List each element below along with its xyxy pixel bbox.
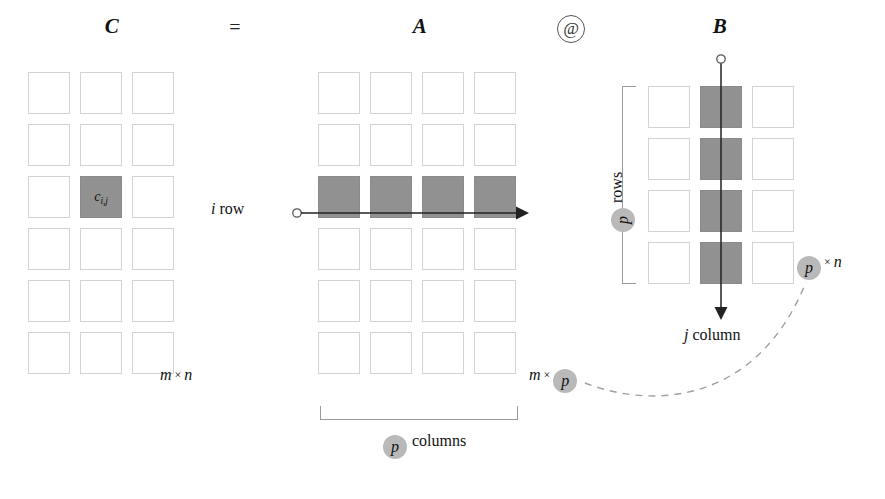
matrix-c-cell [28,280,70,322]
p-columns-pill: p [383,435,407,459]
matrix-b-dim-n: n [834,253,842,270]
matrix-c-cell [28,176,70,218]
matrix-a-dimension: m×p [529,366,577,393]
matrix-b-cell [648,242,690,284]
matrix-c-dimension: m×n [160,366,192,384]
i-row-label-roman: row [219,200,244,217]
matrix-a-cell [474,228,516,270]
matrix-b-cell [648,86,690,128]
matrix-c-cell [28,72,70,114]
matrix-b-cell [752,138,794,180]
matrix-a-cell [474,280,516,322]
i-row-arrow-origin-dot [293,209,301,217]
matrix-b-dimension: p×n [797,253,842,280]
matrix-a-dim-m: m [529,366,541,383]
matrix-c-cell [132,280,174,322]
matrix-b-cell [700,86,742,128]
matrix-c-cell [132,228,174,270]
matrix-a-columns-bracket [320,406,518,420]
matrix-a-cell [370,228,412,270]
matrix-c-cell [80,228,122,270]
matrix-b-cell [752,86,794,128]
matrix-b-cell [700,138,742,180]
j-column-label-italic: j [684,326,688,343]
matrix-c-grid: ci,j [28,72,174,374]
matrix-a-cell [318,124,360,166]
j-column-label: j column [684,326,740,344]
matrix-a-cell [474,332,516,374]
p-rows-pill: p [611,208,635,232]
matrix-a-cell [474,124,516,166]
j-column-label-roman: column [692,326,740,343]
matrix-c-cell [80,72,122,114]
p-rows-text: rows [608,172,625,208]
matrix-a-cell [474,176,516,218]
p-columns-text: columns [407,432,466,449]
matrix-b-cell [752,190,794,232]
c-ij-label: ci,j [81,189,121,206]
p-columns-label: pcolumns [383,432,466,459]
matrix-b-cell [648,190,690,232]
equals-operator: = [215,16,255,39]
matrix-b-dim-times: × [821,255,834,269]
matrix-b-grid [648,86,794,284]
matrix-c-cell [80,280,122,322]
p-rows-label: prows [608,172,635,232]
matrix-c-cell [132,176,174,218]
matrix-a-cell [422,72,464,114]
matrix-c-cell [132,124,174,166]
matrix-a-cell [370,176,412,218]
matrix-c-title: C [52,14,172,39]
matrix-c-cell [132,72,174,114]
matrix-b-dim-p-pill: p [797,256,821,280]
matrix-c-dim-n: n [184,366,192,383]
matrix-c-cell [28,124,70,166]
matrix-a-title: A [340,14,500,39]
matrix-c-dim-times: × [172,368,185,382]
matrix-c-cell [80,332,122,374]
matrix-b-cell [700,190,742,232]
matrix-a-cell [318,72,360,114]
matrix-a-cell [422,332,464,374]
matrix-c-cell [28,332,70,374]
matrix-a-grid [318,72,516,374]
matrix-b-cell [648,138,690,180]
matrix-a-cell [318,176,360,218]
matrix-a-cell [370,124,412,166]
matrix-a-cell [318,332,360,374]
j-column-arrow-origin-dot [717,55,725,63]
matrix-a-cell [474,72,516,114]
matrix-c-cell: ci,j [80,176,122,218]
matrix-b-cell [700,242,742,284]
matrix-b-title: B [660,14,780,39]
matrix-b-cell [752,242,794,284]
matrix-a-dim-p-pill: p [553,369,577,393]
at-operator-icon: @ [557,15,585,43]
matrix-a-cell [318,280,360,322]
matrix-multiplication-diagram: C = A @ B ci,j m×n i row pcolumns m×p pr… [0,0,885,499]
i-row-label: i row [211,200,244,218]
matrix-a-cell [370,332,412,374]
matrix-c-cell [80,124,122,166]
matrix-a-cell [422,280,464,322]
matrix-a-cell [370,72,412,114]
matrix-a-cell [318,228,360,270]
matrix-a-cell [422,228,464,270]
matrix-a-cell [422,124,464,166]
matrix-a-dim-times: × [541,368,554,382]
matrix-a-cell [370,280,412,322]
matrix-c-dim-m: m [160,366,172,383]
matrix-a-cell [422,176,464,218]
i-row-label-italic: i [211,200,215,217]
matrix-c-cell [28,228,70,270]
